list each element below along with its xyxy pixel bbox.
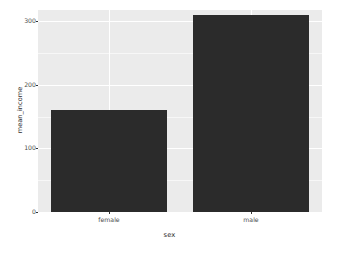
bar-chart-plot: mean_income 3002001000 femalemale sex <box>0 0 339 254</box>
x-tick-mark <box>251 212 252 214</box>
y-axis-tick-labels: 3002001000 <box>18 0 36 254</box>
plot-panel <box>38 10 322 212</box>
bar-female <box>51 110 167 212</box>
y-tick-label-100: 100 <box>18 145 36 151</box>
x-tick-label-male: male <box>243 217 258 223</box>
y-tick-label-300: 300 <box>18 18 36 24</box>
x-tick-mark <box>109 212 110 214</box>
x-tick-label-female: female <box>98 217 119 223</box>
y-tick-mark <box>36 212 38 213</box>
x-axis-title: sex <box>0 232 339 239</box>
bar-male <box>193 15 309 212</box>
y-tick-label-200: 200 <box>18 82 36 88</box>
y-tick-label-0: 0 <box>18 209 36 215</box>
